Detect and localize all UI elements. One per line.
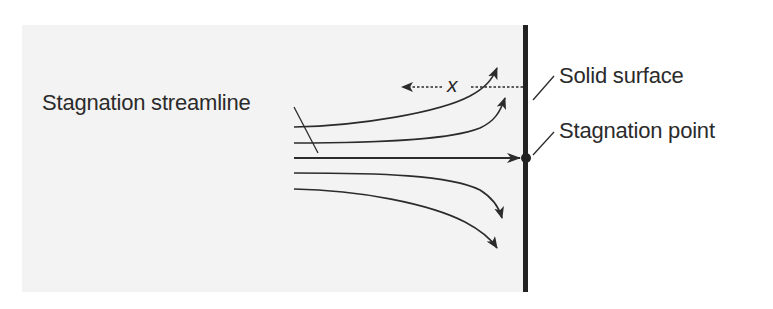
leader-stagnation-streamline <box>294 107 318 153</box>
streamline-lower-outer <box>294 189 497 248</box>
streamline-upper-outer <box>294 68 497 127</box>
label-stagnation-streamline: Stagnation streamline <box>42 92 251 114</box>
leader-solid-surface <box>533 76 554 100</box>
streamline-lower-inner <box>294 173 502 218</box>
flow-diagram <box>0 0 773 309</box>
streamline-upper-inner <box>294 98 505 143</box>
label-distance-x: x <box>447 74 458 95</box>
stagnation-point-dot <box>521 153 531 163</box>
leader-stagnation-point <box>533 132 554 155</box>
label-stagnation-point: Stagnation point <box>559 120 715 142</box>
label-solid-surface: Solid surface <box>559 65 684 87</box>
